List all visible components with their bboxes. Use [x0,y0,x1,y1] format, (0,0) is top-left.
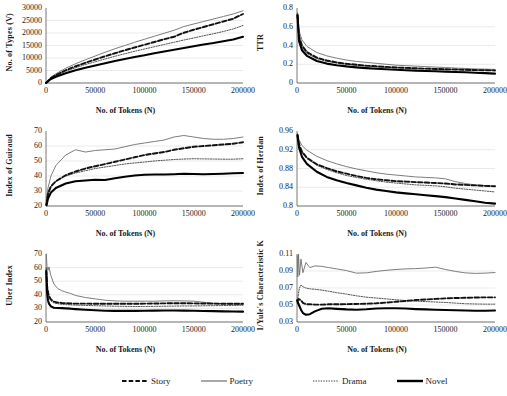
series-line-story [46,14,243,83]
x-axis-label-guiraud: No. of Tokens (N) [0,229,251,238]
plot-area-herdan [297,131,495,206]
y-tick-label: 0.96 [279,127,293,135]
y-tick-label: 25000 [22,17,42,25]
legend-item-drama: Drama [313,376,367,386]
y-tick-label: 0.2 [283,60,293,68]
y-ticks-types: 050001000015000200002500030000 [14,8,44,83]
y-ticks-uber: 203040506070 [14,254,44,322]
chart-types [46,8,243,83]
chart-guiraud [46,131,243,206]
y-tick-label: 70 [34,127,42,135]
x-tick-label: 100000 [133,326,157,334]
y-tick-label: 0.84 [279,183,293,191]
series-line-novel [46,173,243,205]
x-tick-label: 150000 [182,210,206,218]
legend-item-poetry: Poetry [201,376,254,386]
y-tick-label: 50 [34,277,42,285]
series-line-novel [46,37,243,83]
y-ticks-ttr: 00.20.40.60.8 [265,8,295,83]
y-tick-label: 0.92 [279,146,293,154]
x-tick-label: 50000 [337,326,357,334]
x-ticks-types: 050000100000150000200000 [46,87,243,99]
x-tick-label: 200000 [483,87,507,95]
legend-item-novel: Novel [397,376,448,386]
y-tick-label: 0 [38,79,42,87]
series-line-poetry [46,11,243,83]
x-tick-label: 50000 [337,210,357,218]
series-line-drama [297,16,495,71]
plot-area-types [46,8,243,83]
y-tick-label: 20 [34,202,42,210]
x-tick-label: 100000 [384,87,408,95]
y-tick-label: 15000 [22,42,42,50]
legend-label: Story [151,376,171,386]
y-ticks-guiraud: 203040506070 [14,131,44,206]
chart-herdan [297,131,495,206]
y-tick-label: 0 [289,79,293,87]
legend-key-icon [397,376,423,386]
plot-area-yule [297,254,495,322]
y-tick-label: 60 [34,142,42,150]
legend-key-icon [313,376,339,386]
y-ticks-yule: 0.030.050.070.090.11 [265,254,295,322]
series-line-story [46,270,243,303]
legend-label: Poetry [230,376,254,386]
x-ticks-guiraud: 050000100000150000200000 [46,210,243,222]
y-tick-label: 20 [34,318,42,326]
y-ticks-herdan: 0.80.840.880.920.96 [265,131,295,206]
panel-yule: 1/Yule's Characteristic K 0.030.050.070.… [251,246,503,362]
x-tick-label: 0 [295,326,299,334]
x-tick-label: 0 [295,87,299,95]
y-tick-label: 30 [34,304,42,312]
x-ticks-ttr: 050000100000150000200000 [297,87,495,99]
y-tick-label: 0.09 [279,267,293,275]
x-tick-label: 50000 [337,87,357,95]
plot-area-ttr [297,8,495,83]
y-tick-label: 0.8 [283,4,293,12]
x-tick-label: 100000 [384,210,408,218]
x-axis-label-uber: No. of Tokens (N) [0,345,251,354]
figure-legend: StoryPoetry DramaNovel [0,368,503,394]
y-tick-label: 70 [34,250,42,258]
y-tick-label: 0.88 [279,165,293,173]
chart-yule [297,254,495,322]
series-line-novel [297,301,495,315]
legend-label: Drama [342,376,367,386]
y-tick-label: 30 [34,187,42,195]
y-tick-label: 0.8 [283,202,293,210]
y-tick-label: 40 [34,172,42,180]
x-tick-label: 150000 [434,210,458,218]
y-tick-label: 10000 [22,54,42,62]
legend-group-right: DramaNovel [313,376,478,386]
legend-key-icon [201,376,227,386]
x-ticks-uber: 050000100000150000200000 [46,326,243,338]
y-tick-label: 0.4 [283,42,293,50]
panel-ttr: TTR 00.20.40.60.8 0500001000001500002000… [251,0,503,123]
legend-label: Novel [426,376,448,386]
legend-item-story: Story [122,376,171,386]
y-tick-label: 0.11 [279,250,293,258]
x-tick-label: 100000 [133,210,157,218]
x-axis-label-types: No. of Tokens (N) [0,106,251,115]
series-line-poetry [46,254,243,304]
x-ticks-herdan: 050000100000150000200000 [297,210,495,222]
panel-types: No. of Types (V) 05000100001500020000250… [0,0,251,123]
series-line-poetry [297,133,495,186]
x-axis-label-herdan: No. of Tokens (N) [251,229,503,238]
chart-uber [46,254,243,322]
legend-group-left: StoryPoetry [122,376,283,386]
x-ticks-yule: 050000100000150000200000 [297,326,495,338]
panel-grid: No. of Types (V) 05000100001500020000250… [0,0,503,362]
y-tick-label: 20000 [22,29,42,37]
x-tick-label: 100000 [133,87,157,95]
legend-key-icon [122,376,148,386]
panel-guiraud: Index of Guiraud 203040506070 0500001000… [0,123,251,246]
y-tick-label: 40 [34,291,42,299]
panel-herdan: Index of Herdan 0.80.840.880.920.96 0500… [251,123,503,246]
series-line-drama [46,268,243,307]
x-tick-label: 0 [44,210,48,218]
y-tick-label: 30000 [22,4,42,12]
x-tick-label: 0 [44,326,48,334]
x-tick-label: 100000 [384,326,408,334]
